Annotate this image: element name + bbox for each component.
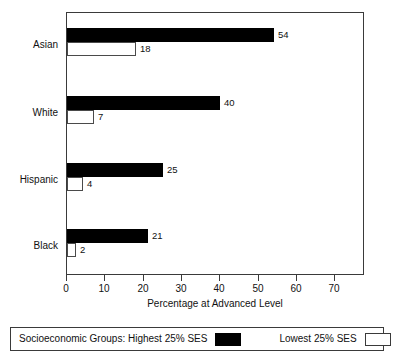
bar-black-highest-ses (67, 229, 148, 243)
x-tick-label-40: 40 (213, 283, 224, 295)
x-tick-mark-10 (104, 275, 105, 281)
legend-label-lowest-ses: Lowest 25% SES (279, 333, 356, 345)
bar-hispanic-highest-ses (67, 163, 163, 177)
bar-label-black-highest-ses: 21 (152, 229, 163, 243)
bar-label-asian-lowest-ses: 18 (140, 42, 151, 56)
x-tick-mark-20 (143, 275, 144, 281)
plot-area: 54 18 40 7 25 4 21 2 (66, 12, 364, 275)
x-tick-mark-50 (258, 275, 259, 281)
x-tick-mark-40 (219, 275, 220, 281)
chart-legend: Socioeconomic Groups: Highest 25% SES Lo… (10, 327, 384, 351)
legend-entry-highest-ses: Socioeconomic Groups: Highest 25% SES (19, 333, 241, 346)
bar-group-hispanic: 25 4 (67, 163, 363, 191)
bar-label-asian-highest-ses: 54 (278, 28, 289, 42)
bar-group-asian: 54 18 (67, 28, 363, 56)
bar-label-white-highest-ses: 40 (224, 96, 235, 110)
bar-black-lowest-ses (67, 243, 76, 257)
x-tick-label-50: 50 (252, 283, 263, 295)
x-tick-label-20: 20 (137, 283, 148, 295)
legend-entry-lowest-ses: Lowest 25% SES (279, 333, 390, 346)
bar-label-white-lowest-ses: 7 (98, 110, 103, 124)
x-tick-label-60: 60 (290, 283, 301, 295)
bar-white-highest-ses (67, 96, 220, 110)
bar-label-hispanic-highest-ses: 25 (167, 163, 178, 177)
bar-hispanic-lowest-ses (67, 177, 83, 191)
bar-label-black-lowest-ses: 2 (80, 243, 85, 257)
bar-asian-highest-ses (67, 28, 274, 42)
legend-label-highest-ses: Socioeconomic Groups: Highest 25% SES (19, 333, 207, 345)
x-tick-label-10: 10 (98, 283, 109, 295)
bar-white-lowest-ses (67, 110, 94, 124)
category-label-black: Black (0, 240, 58, 252)
category-label-white: White (0, 107, 58, 119)
legend-swatch-black-icon (215, 333, 241, 346)
x-tick-mark-30 (181, 275, 182, 281)
bar-label-hispanic-lowest-ses: 4 (87, 177, 92, 191)
x-tick-mark-60 (296, 275, 297, 281)
x-tick-label-30: 30 (175, 283, 186, 295)
bar-asian-lowest-ses (67, 42, 136, 56)
category-label-hispanic: Hispanic (0, 174, 58, 186)
bar-group-black: 21 2 (67, 229, 363, 257)
x-tick-mark-70 (334, 275, 335, 281)
x-tick-mark-0 (66, 275, 67, 281)
bar-group-white: 40 7 (67, 96, 363, 124)
x-tick-label-70: 70 (328, 283, 339, 295)
x-axis-title: Percentage at Advanced Level (66, 298, 364, 310)
category-label-asian: Asian (0, 39, 58, 51)
bar-chart-figure: 54 18 40 7 25 4 21 2 Asian White Hispani… (0, 0, 394, 359)
legend-swatch-white-icon (365, 333, 391, 346)
x-tick-label-0: 0 (63, 283, 69, 295)
